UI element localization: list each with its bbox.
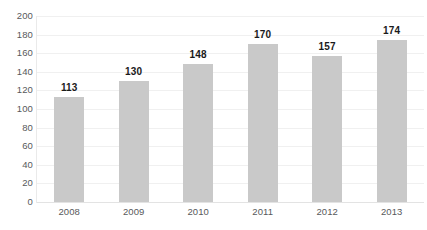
bar-value-label: 157 bbox=[302, 41, 352, 52]
y-axis-tick-label: 40 bbox=[1, 160, 33, 170]
x-axis-tick-label: 2011 bbox=[238, 206, 288, 217]
gridline bbox=[37, 202, 424, 203]
gridline bbox=[37, 109, 424, 110]
bar[interactable] bbox=[377, 40, 407, 202]
bar-chart: 200180160140120100806040200 113130148170… bbox=[0, 0, 427, 230]
bar[interactable] bbox=[248, 44, 278, 202]
gridline bbox=[37, 16, 424, 17]
y-axis-tick-label: 120 bbox=[1, 85, 33, 95]
y-axis-tick-label: 20 bbox=[1, 178, 33, 188]
x-axis-tick-label: 2012 bbox=[302, 206, 352, 217]
y-axis: 200180160140120100806040200 bbox=[0, 0, 33, 230]
gridline bbox=[37, 165, 424, 166]
gridline bbox=[37, 183, 424, 184]
gridline bbox=[37, 90, 424, 91]
bar[interactable] bbox=[119, 81, 149, 202]
bar-value-label: 174 bbox=[367, 25, 417, 36]
y-axis-tick-label: 100 bbox=[1, 104, 33, 114]
x-axis-tick-label: 2008 bbox=[44, 206, 94, 217]
gridline bbox=[37, 146, 424, 147]
y-axis-tick-label: 80 bbox=[1, 123, 33, 133]
y-axis-tick-label: 60 bbox=[1, 141, 33, 151]
y-axis-tick-label: 160 bbox=[1, 48, 33, 58]
x-axis-tick-label: 2013 bbox=[367, 206, 417, 217]
bar-value-label: 130 bbox=[109, 66, 159, 77]
y-axis-tick-label: 180 bbox=[1, 30, 33, 40]
bar[interactable] bbox=[183, 64, 213, 202]
x-axis-tick-label: 2010 bbox=[173, 206, 223, 217]
y-axis-tick-label: 140 bbox=[1, 67, 33, 77]
plot-area: 113130148170157174 bbox=[37, 16, 424, 202]
bar[interactable] bbox=[312, 56, 342, 202]
x-axis-tick-label: 2009 bbox=[109, 206, 159, 217]
bar-value-label: 113 bbox=[44, 82, 94, 93]
bar-value-label: 170 bbox=[238, 29, 288, 40]
gridline bbox=[37, 128, 424, 129]
gridline bbox=[37, 53, 424, 54]
bar-value-label: 148 bbox=[173, 49, 223, 60]
y-axis-tick-label: 200 bbox=[1, 11, 33, 21]
bar[interactable] bbox=[54, 97, 84, 202]
x-axis: 200820092010201120122013 bbox=[0, 206, 427, 224]
gridline bbox=[37, 72, 424, 73]
